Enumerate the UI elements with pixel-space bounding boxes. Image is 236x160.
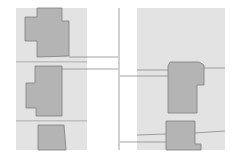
building-left-3 (38, 125, 66, 150)
parcel-map (0, 0, 236, 160)
